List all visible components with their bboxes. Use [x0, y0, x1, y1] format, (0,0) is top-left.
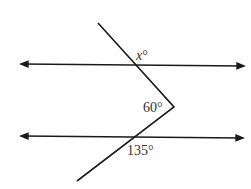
label-x-angle: x°	[135, 48, 148, 63]
top-parallel-line	[21, 64, 244, 66]
label-135-angle: 135°	[127, 143, 154, 158]
bottom-parallel-line	[21, 136, 243, 138]
angle-diagram: x° 60° 135°	[0, 0, 251, 189]
label-60-angle: 60°	[143, 100, 163, 115]
